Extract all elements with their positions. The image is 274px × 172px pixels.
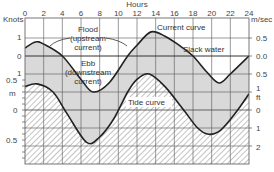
x-tick-label: 0	[23, 9, 28, 18]
tide-curve-label: Tide curve	[128, 98, 166, 107]
ft-tick-0: 0	[256, 106, 261, 115]
current-curve-label: Current curve	[157, 23, 206, 32]
x-tick-label: 10	[114, 9, 123, 18]
x-tick-label: 16	[170, 9, 179, 18]
left-axis-unit-m: m	[9, 89, 16, 98]
flood-label-line1: Flood	[78, 25, 98, 34]
msec-tick-00: 0.0	[256, 52, 268, 61]
x-tick-label: 14	[151, 9, 160, 18]
x-tick-label: 2	[41, 9, 46, 18]
x-tick-label: 12	[133, 9, 142, 18]
m-tick-05-lower: 0.5	[6, 136, 18, 145]
knot-tick-1-lower: 1	[17, 69, 22, 78]
x-tick-label: 20	[207, 9, 216, 18]
m-tick-0: 0	[13, 106, 18, 115]
x-tick-label: 4	[60, 9, 65, 18]
flood-arrow-left	[50, 38, 70, 46]
x-tick-label: 22	[226, 9, 235, 18]
flood-label-line3: current)	[74, 43, 102, 52]
left-axis-tick-marks	[22, 80, 25, 158]
knot-tick-1-upper: 1	[17, 33, 22, 42]
right-axis-unit-ft: ft	[256, 93, 261, 102]
x-tick-label: 8	[97, 9, 102, 18]
ft-tick-1-lower: 1	[256, 124, 261, 133]
ebb-label-line2: (downstream	[65, 68, 112, 77]
ebb-label-line3: current)	[74, 77, 102, 86]
x-axis-title: Hours	[126, 0, 147, 9]
slack-water-label: Slack water	[183, 45, 225, 54]
x-tick-label: 6	[79, 9, 84, 18]
flood-arrow-right	[106, 38, 127, 46]
x-tick-label: 18	[189, 9, 198, 18]
right-axis-unit-msec: m/sec	[251, 15, 272, 24]
tide-current-chart: Hours 024681012141618202224 Knots 1 0 1 …	[0, 0, 274, 172]
msec-tick-05-upper: 0.5	[256, 34, 268, 43]
m-tick-05-upper: 0.5	[6, 76, 18, 85]
flood-label-line2: (upstream	[70, 34, 106, 43]
msec-tick-05-lower: 0.5	[256, 70, 268, 79]
ebb-label-line1: Ebb	[81, 59, 96, 68]
right-axis-tick-marks	[249, 38, 252, 146]
left-axis-unit-knots: Knots	[3, 15, 23, 24]
ft-tick-1-upper: 1	[256, 84, 261, 93]
x-axis-ticks: 024681012141618202224	[23, 9, 254, 18]
knot-tick-0: 0	[17, 52, 22, 61]
ft-tick-2: 2	[256, 143, 261, 152]
